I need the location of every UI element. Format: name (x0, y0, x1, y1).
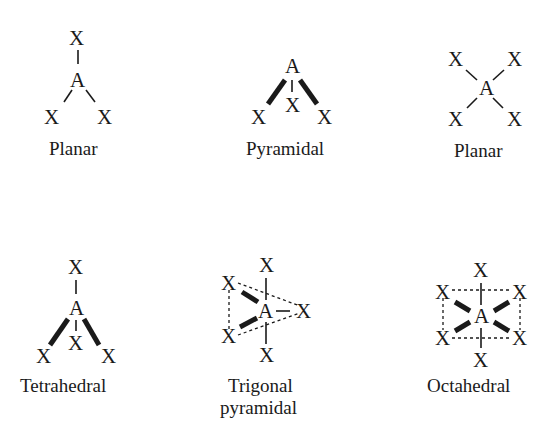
ligand-x: X (36, 344, 51, 368)
geometry-label: Planar (454, 140, 503, 161)
ligand-x: X (221, 324, 236, 348)
ligand-x: X (296, 299, 311, 323)
central-atom-a: A (474, 304, 490, 328)
ligand-x: X (221, 271, 236, 295)
geometry-label-line2: pyramidal (220, 397, 297, 418)
ligand-x: X (259, 343, 274, 367)
ligand-x: X (97, 105, 112, 129)
geometry-label-line1: Trigonal (228, 375, 293, 396)
ligand-x: X (473, 348, 488, 372)
geometry-pyramidal: A X X X Pyramidal (246, 54, 332, 159)
ligand-x: X (259, 253, 274, 277)
ligand-x: X (448, 107, 463, 131)
geometry-label: Octahedral (427, 375, 510, 396)
ligand-x: X (435, 326, 450, 350)
central-atom-a: A (70, 68, 86, 92)
ligand-x: X (68, 255, 83, 279)
geometry-label: Tetrahedral (20, 375, 106, 396)
ligand-x: X (101, 344, 116, 368)
ligand-x: X (507, 107, 522, 131)
molecular-geometries-diagram: X A X X Planar A X X X Pyramidal X X A X… (0, 0, 552, 423)
ligand-x: X (512, 280, 527, 304)
central-atom-a: A (285, 54, 301, 78)
ligand-x: X (507, 47, 522, 71)
ligand-x: X (44, 105, 59, 129)
central-atom-a: A (479, 76, 495, 100)
geometry-tetrahedral: X A X X X Tetrahedral (20, 255, 116, 396)
ligand-x: X (473, 258, 488, 282)
ligand-x: X (69, 26, 84, 50)
ligand-x: X (285, 93, 300, 117)
geometry-planar-trigonal: X A X X Planar (44, 26, 112, 159)
geometry-label: Planar (49, 138, 98, 159)
central-atom-a: A (69, 296, 85, 320)
geometry-label: Pyramidal (246, 138, 324, 159)
ligand-x: X (512, 326, 527, 350)
geometry-planar-square: X X A X X Planar (448, 47, 522, 161)
ligand-x: X (435, 280, 450, 304)
central-atom-a: A (258, 299, 274, 323)
ligand-x: X (251, 105, 266, 129)
ligand-x: X (68, 331, 83, 355)
geometry-octahedral: X X X A X X X Octahedral (427, 258, 527, 396)
ligand-x: X (448, 47, 463, 71)
geometry-trigonal-bipyramidal: X X A X X X Trigonal pyramidal (220, 253, 311, 418)
ligand-x: X (317, 105, 332, 129)
